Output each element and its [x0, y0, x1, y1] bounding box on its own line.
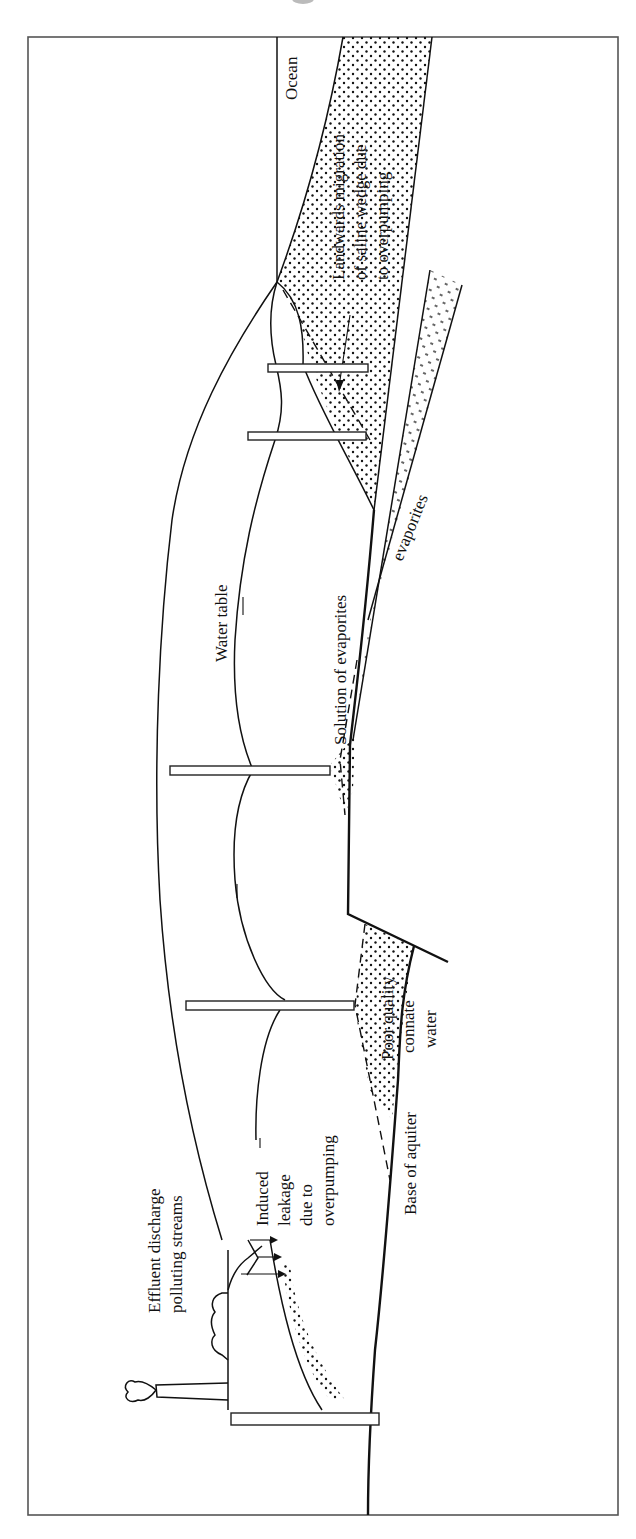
- label-poor-quality: Poor quality: [378, 976, 397, 1060]
- chimney: [156, 1383, 228, 1400]
- label-induced-1: Induced: [253, 1171, 272, 1226]
- label-saline-wedge-3: to overpumping: [373, 171, 392, 280]
- label-induced-4: overpumping: [319, 1135, 338, 1226]
- label-effluent-2: polluting streams: [167, 1195, 186, 1313]
- well-4: [186, 1001, 354, 1010]
- label-ocean: Ocean: [282, 56, 301, 100]
- label-solution-of-evaporites: Solution of evaporites: [331, 595, 350, 745]
- label-induced-3: due to: [297, 1184, 316, 1226]
- base-of-aquifer-upper: [348, 510, 448, 962]
- aquifer-cross-section-diagram: Ocean Landwards migration of saline wedg…: [0, 0, 636, 1539]
- label-base-of-aquifer: Base of aquiter: [401, 1112, 420, 1215]
- solution-of-evaporites-region: [330, 735, 355, 815]
- leakage-arrows: [241, 1236, 286, 1278]
- effluent-outflow: [228, 1246, 262, 1290]
- water-table-line: [234, 282, 281, 770]
- label-saline-wedge-1: Landwards migration: [329, 134, 348, 280]
- well-1: [268, 364, 368, 372]
- well-5: [231, 1413, 379, 1425]
- label-effluent-1: Effluent discharge: [145, 1189, 164, 1313]
- label-induced-2: leakage: [275, 1174, 294, 1226]
- induced-leakage-region: [282, 1265, 345, 1400]
- label-water-table: Water table: [212, 585, 231, 662]
- label-saline-wedge-2: of saline wedge due: [351, 145, 370, 280]
- water-table-cone-1: [234, 770, 285, 1000]
- factory-roof-sawtooth: [211, 1293, 228, 1360]
- label-connate: connate: [399, 1000, 418, 1053]
- smoke-cloud: [126, 1381, 156, 1401]
- well-2: [248, 432, 366, 440]
- well-3: [170, 766, 330, 775]
- label-water: water: [421, 1010, 440, 1048]
- ground-surface-line: [157, 282, 277, 1240]
- water-table-cone-2: [256, 1010, 280, 1140]
